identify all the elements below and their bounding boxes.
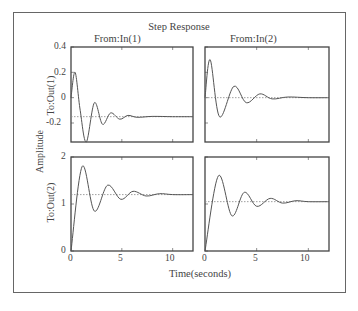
- step-response-curve: [71, 72, 193, 142]
- axes-box: [205, 157, 329, 251]
- step-response-curve: [205, 175, 329, 251]
- axes-box: [71, 157, 193, 251]
- step-response-curve: [71, 166, 193, 251]
- step-response-curve: [205, 59, 329, 117]
- plot-area: [0, 0, 358, 311]
- axes-box: [205, 47, 329, 142]
